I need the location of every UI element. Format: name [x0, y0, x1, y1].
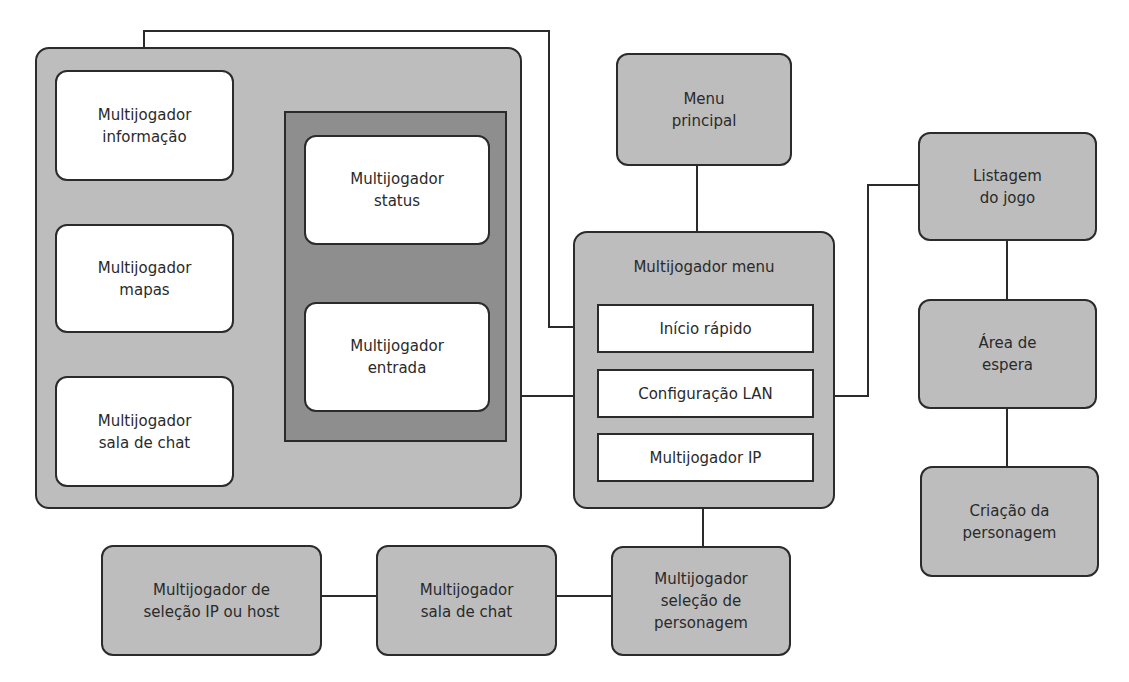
node-selecao-de-personagem[interactable]: Multijogador seleção de personagem [611, 546, 791, 656]
node-area-de-espera[interactable]: Área de espera [918, 299, 1097, 409]
node-label: Multijogador sala de chat [98, 410, 192, 454]
node-selecao-ip-ou-host[interactable]: Multijogador de seleção IP ou host [101, 545, 322, 656]
node-label: Multijogador entrada [350, 335, 444, 379]
node-label: Multijogador de seleção IP ou host [144, 579, 280, 623]
node-label: Multijogador status [350, 168, 444, 212]
node-label: Multijogador sala de chat [420, 579, 514, 623]
node-label: Multijogador seleção de personagem [654, 568, 748, 634]
node-multijogador-mapas[interactable]: Multijogador mapas [55, 224, 234, 333]
node-criacao-da-personagem[interactable]: Criação da personagem [920, 466, 1099, 577]
menu-item-label: Multijogador IP [650, 449, 762, 467]
node-multijogador-informacao[interactable]: Multijogador informação [55, 70, 234, 181]
node-menu-principal[interactable]: Menu principal [616, 53, 792, 166]
node-label: Listagem do jogo [973, 165, 1042, 209]
node-label: Criação da personagem [963, 500, 1057, 544]
node-multijogador-entrada[interactable]: Multijogador entrada [304, 302, 490, 412]
node-label: Menu principal [672, 88, 737, 132]
node-multijogador-sala-de-chat[interactable]: Multijogador sala de chat [55, 376, 234, 487]
node-listagem-do-jogo[interactable]: Listagem do jogo [918, 132, 1097, 241]
menu-item-label: Configuração LAN [638, 385, 773, 403]
node-multijogador-status[interactable]: Multijogador status [304, 135, 490, 245]
node-bottom-sala-de-chat[interactable]: Multijogador sala de chat [376, 545, 557, 656]
menu-item-multijogador-ip[interactable]: Multijogador IP [597, 433, 814, 482]
multijogador-menu-title: Multijogador menu [573, 258, 835, 276]
menu-item-label: Início rápido [659, 320, 751, 338]
menu-item-inicio-rapido[interactable]: Início rápido [597, 304, 814, 353]
node-label: Multijogador mapas [98, 257, 192, 301]
node-label: Multijogador informação [98, 104, 192, 148]
node-label: Área de espera [978, 332, 1036, 376]
menu-item-configuracao-lan[interactable]: Configuração LAN [597, 369, 814, 418]
